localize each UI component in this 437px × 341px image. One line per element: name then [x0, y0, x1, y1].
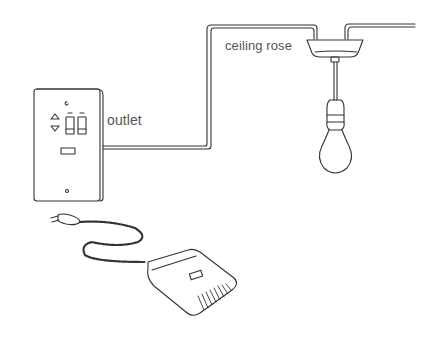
light-bulb [319, 100, 351, 173]
remote-device [148, 249, 237, 315]
plug [51, 214, 80, 225]
wire-rose-to-right [345, 24, 415, 39]
ceiling-rose-label: ceiling rose [225, 38, 292, 53]
coiled-cord [80, 222, 145, 262]
wiring-diagram [0, 0, 437, 341]
ceiling-rose [307, 40, 363, 62]
outlet-box [34, 89, 103, 201]
outlet-label: outlet [107, 112, 142, 128]
